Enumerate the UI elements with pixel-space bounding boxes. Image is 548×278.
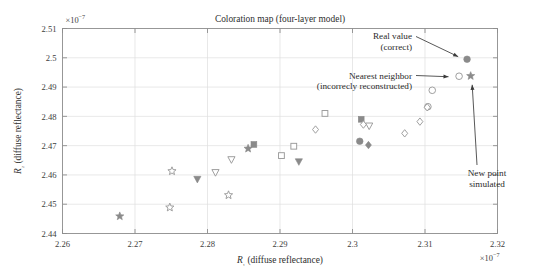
data-point-circle-open-20	[429, 87, 436, 94]
data-point-star-open-2	[168, 167, 176, 175]
data-point-triangle-down-filled-3	[194, 176, 201, 183]
x-tick-label: 2.32	[490, 239, 505, 249]
data-point-diamond-open-23	[417, 118, 423, 125]
x-tick-label: 2.3	[347, 239, 358, 249]
x-axis-title: R₁ (diffuse reflectance)	[236, 255, 323, 267]
y-tick-label: 2.48	[41, 112, 56, 122]
real-value-leader	[416, 37, 458, 57]
data-point-star-filled-0	[116, 212, 124, 220]
data-point-square-open-10	[291, 143, 297, 149]
x-axis-exponent: ×10−7	[480, 251, 500, 262]
y-tick-label: 2.5	[46, 53, 57, 63]
data-point-diamond-filled-18	[365, 141, 371, 148]
grid	[63, 29, 498, 234]
data-point-circle-nearest-neighbor-25	[456, 73, 463, 80]
y-tick-label: 2.47	[41, 141, 57, 151]
real-value-arrowhead	[453, 53, 458, 57]
y-tick-label: 2.45	[41, 199, 56, 209]
data-point-triangle-down-open-16	[366, 123, 373, 130]
data-point-star-open-5	[224, 191, 232, 199]
data-point-diamond-open-12	[313, 126, 319, 133]
data-point-star-new-point-26	[467, 72, 475, 80]
data-point-square-open-13	[322, 111, 328, 117]
real-value-label: Real value(correct)	[373, 31, 412, 52]
x-tick-label: 2.29	[272, 239, 287, 249]
x-tick-label: 2.26	[55, 239, 71, 249]
x-tick-label: 2.28	[200, 239, 215, 249]
y-tick-label: 2.49	[41, 82, 56, 92]
y-tick-label: 2.51	[41, 24, 56, 34]
annotations: Real value(correct)Nearest neighbor(inco…	[317, 31, 507, 189]
data-point-circle-real-value-24	[464, 56, 471, 63]
new-point-leader	[472, 85, 477, 165]
new-point-label: New pointsimulated	[468, 168, 507, 189]
x-tick-label: 2.31	[417, 239, 432, 249]
data-point-triangle-down-filled-11	[295, 159, 302, 166]
data-point-circle-filled-17	[356, 138, 363, 145]
y-axis-exponent: ×10−7	[66, 13, 86, 24]
y-tick-label: 2.44	[41, 229, 57, 239]
coloration-map-figure: 2.262.272.282.292.32.312.322.442.452.462…	[0, 0, 548, 278]
nearest-neighbor-label: Nearest neighbor(incorrecly reconstructe…	[317, 71, 412, 92]
data-point-square-filled-8	[251, 142, 257, 148]
x-tick-label: 2.27	[127, 239, 143, 249]
chart-title: Coloration map (four-layer model)	[215, 14, 345, 25]
y-tick-label: 2.46	[41, 170, 57, 180]
data-point-diamond-open-19	[402, 130, 408, 137]
nearest-neighbor-arrowhead	[443, 75, 448, 79]
y-axis-title: R₂ (diffuse reflectance)	[13, 88, 25, 175]
data-points	[116, 56, 475, 220]
data-point-square-open-9	[279, 153, 285, 159]
data-point-triangle-down-open-6	[228, 157, 235, 164]
